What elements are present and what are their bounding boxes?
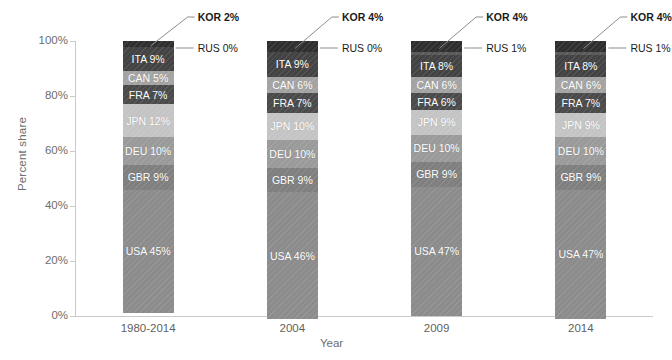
segment-gbr[interactable]: GBR 9% <box>555 165 606 190</box>
segment-ita[interactable]: ITA 8% <box>555 55 606 77</box>
segment-usa[interactable]: USA 45% <box>123 190 174 314</box>
callout-kor-2004: KOR 4% <box>342 11 383 23</box>
y-tick-mark <box>70 206 75 207</box>
segment-fra[interactable]: FRA 7% <box>267 93 318 112</box>
segment-label: DEU 10% <box>269 148 315 160</box>
segment-label: DEU 10% <box>558 145 604 157</box>
segment-label: USA 47% <box>414 245 459 257</box>
segment-label: FRA 7% <box>129 89 168 101</box>
segment-jpn[interactable]: JPN 12% <box>123 104 174 137</box>
y-tick-mark <box>70 261 75 262</box>
segment-gbr[interactable]: GBR 9% <box>267 168 318 193</box>
segment-can[interactable]: CAN 6% <box>267 77 318 94</box>
segment-fra[interactable]: FRA 6% <box>411 93 462 110</box>
segment-label: USA 46% <box>270 250 315 262</box>
segment-label: ITA 8% <box>564 60 597 72</box>
segment-label: ITA 9% <box>276 58 309 70</box>
segment-label: CAN 6% <box>561 79 601 91</box>
y-tick-label: 40% <box>4 199 68 211</box>
segment-usa[interactable]: USA 47% <box>411 187 462 316</box>
plot-area: ITA 9%CAN 5%FRA 7%JPN 12%DEU 10%GBR 9%US… <box>76 41 653 316</box>
segment-ita[interactable]: ITA 9% <box>123 47 174 72</box>
segment-deu[interactable]: DEU 10% <box>123 137 174 165</box>
bar-2009[interactable]: ITA 8%CAN 6%FRA 6%JPN 9%DEU 10%GBR 9%USA… <box>411 41 462 316</box>
segment-label: JPN 12% <box>126 115 170 127</box>
segment-label: CAN 6% <box>416 79 456 91</box>
segment-label: JPN 9% <box>418 116 456 128</box>
segment-label: CAN 5% <box>128 72 168 84</box>
segment-kor[interactable] <box>411 41 462 52</box>
segment-can[interactable]: CAN 6% <box>411 77 462 94</box>
segment-can[interactable]: CAN 5% <box>123 71 174 85</box>
callout-kor-2009: KOR 4% <box>486 11 527 23</box>
segment-can[interactable]: CAN 6% <box>555 77 606 94</box>
category-label-2004: 2004 <box>227 322 357 334</box>
y-tick-label: 0% <box>4 309 68 321</box>
y-tick-label: 80% <box>4 89 68 101</box>
segment-usa[interactable]: USA 46% <box>267 192 318 319</box>
segment-deu[interactable]: DEU 10% <box>555 137 606 165</box>
segment-label: USA 47% <box>558 248 603 260</box>
segment-usa[interactable]: USA 47% <box>555 190 606 319</box>
segment-ita[interactable]: ITA 8% <box>411 55 462 77</box>
y-tick-mark <box>70 151 75 152</box>
segment-deu[interactable]: DEU 10% <box>267 140 318 168</box>
y-tick-mark <box>70 96 75 97</box>
segment-label: GBR 9% <box>560 171 601 183</box>
segment-kor[interactable] <box>555 41 606 52</box>
segment-fra[interactable]: FRA 7% <box>555 93 606 112</box>
segment-label: JPN 10% <box>270 120 314 132</box>
segment-label: ITA 8% <box>420 60 453 72</box>
hatch-overlay <box>411 41 462 52</box>
segment-jpn[interactable]: JPN 9% <box>555 113 606 138</box>
segment-label: FRA 7% <box>562 97 601 109</box>
y-tick-mark <box>70 41 75 42</box>
category-label-2014: 2014 <box>516 322 646 334</box>
segment-label: FRA 7% <box>273 97 312 109</box>
segment-jpn[interactable]: JPN 10% <box>267 113 318 141</box>
callout-kor-2014: KOR 4% <box>630 11 671 23</box>
callout-kor-1980-2014: KOR 2% <box>198 11 239 23</box>
y-tick-label: 20% <box>4 254 68 266</box>
callout-rus-2014: RUS 1% <box>630 42 670 54</box>
segment-label: GBR 9% <box>416 168 457 180</box>
segment-label: JPN 9% <box>562 119 600 131</box>
bar-2014[interactable]: ITA 8%CAN 6%FRA 7%JPN 9%DEU 10%GBR 9%USA… <box>555 41 606 316</box>
callout-rus-2009: RUS 1% <box>486 42 526 54</box>
callout-rus-2004: RUS 0% <box>342 42 382 54</box>
bar-1980-2014[interactable]: ITA 9%CAN 5%FRA 7%JPN 12%DEU 10%GBR 9%US… <box>123 41 174 316</box>
segment-fra[interactable]: FRA 7% <box>123 85 174 104</box>
segment-gbr[interactable]: GBR 9% <box>123 165 174 190</box>
x-axis-title: Year <box>0 337 663 349</box>
segment-gbr[interactable]: GBR 9% <box>411 162 462 187</box>
segment-label: DEU 10% <box>125 145 171 157</box>
bar-2004[interactable]: ITA 9%CAN 6%FRA 7%JPN 10%DEU 10%GBR 9%US… <box>267 41 318 316</box>
callout-rus-1980-2014: RUS 0% <box>198 42 238 54</box>
y-tick-mark <box>70 316 75 317</box>
segment-jpn[interactable]: JPN 9% <box>411 110 462 135</box>
segment-ita[interactable]: ITA 9% <box>267 52 318 77</box>
segment-deu[interactable]: DEU 10% <box>411 135 462 163</box>
segment-label: ITA 9% <box>132 53 165 65</box>
segment-label: GBR 9% <box>272 174 313 186</box>
category-label-1980-2014: 1980-2014 <box>83 322 213 334</box>
segment-label: USA 45% <box>126 245 171 257</box>
segment-label: CAN 6% <box>272 79 312 91</box>
category-label-2009: 2009 <box>372 322 502 334</box>
hatch-overlay <box>555 41 606 52</box>
segment-label: FRA 6% <box>417 96 456 108</box>
segment-label: GBR 9% <box>128 171 169 183</box>
hatch-overlay <box>267 41 318 52</box>
y-tick-label: 60% <box>4 144 68 156</box>
segment-label: DEU 10% <box>414 142 460 154</box>
y-tick-label: 100% <box>4 34 68 46</box>
segment-kor[interactable] <box>267 41 318 52</box>
